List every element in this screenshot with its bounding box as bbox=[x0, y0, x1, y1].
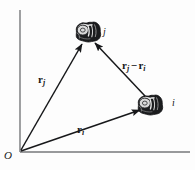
particle-label-j: j bbox=[103, 27, 106, 37]
particle-node-i bbox=[138, 95, 162, 115]
particle-label-i: i bbox=[172, 98, 175, 108]
minus-operator: − bbox=[129, 59, 138, 71]
vector-arrow-rj bbox=[21, 44, 82, 150]
diagram-canvas bbox=[0, 0, 195, 170]
vector-diagram-figure: rj ri rj−ri j i O bbox=[0, 0, 195, 170]
vector-label-rj-minus-ri: rj−ri bbox=[122, 60, 146, 73]
vector-label-ri: ri bbox=[77, 124, 84, 137]
vector-subscript-i: i bbox=[82, 128, 84, 137]
vector-subscript-i: i bbox=[143, 64, 145, 73]
particle-node-j bbox=[76, 22, 100, 42]
origin-label: O bbox=[4, 150, 12, 161]
vector-label-rj: rj bbox=[38, 74, 45, 87]
vector-subscript-j: j bbox=[43, 78, 45, 87]
